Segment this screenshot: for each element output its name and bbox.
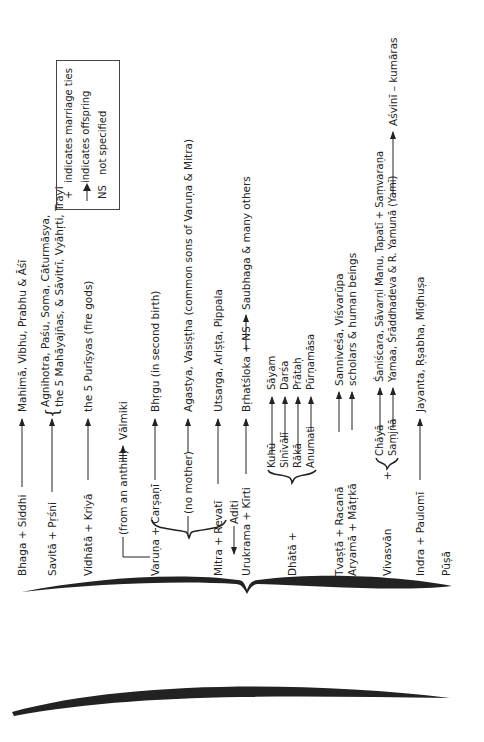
parents-mitra: Mitra + Revatī [212, 501, 224, 576]
offspring-samjna: Yamaa, Śrāddhadeva & R. Yamunā (Yamī) [387, 176, 399, 382]
parent-vivasvan: Vivasvān [381, 529, 393, 576]
aditi-genealogy-diagram: { + indicate [0, 0, 484, 742]
parents-vidhata: Vidhātā + Kriyā [82, 494, 94, 576]
offspring-brhatsloka: Bṛhatśloka + NS [240, 326, 252, 412]
offspring-tvasta: Sanniveśa, Viśvarūpa [333, 273, 345, 386]
parents-urukrama: Urukrama + Kīrti [240, 487, 252, 576]
offspring-sayam: Sāyam [266, 356, 278, 390]
offspring-aryama: scholars & human beings [346, 253, 358, 386]
note-no-mother: (no mother) [182, 451, 194, 514]
wife-chaya: Chāyā [374, 425, 386, 457]
root-aditi: Aditi [228, 500, 240, 524]
ns-symbol: NS [97, 185, 108, 199]
parents-varuna: Varuṇa + Carṣaṇī [149, 484, 161, 576]
main-brace [22, 576, 452, 594]
offspring-saubhaga: Saubhaga & many others [240, 176, 252, 310]
svg-text:{: { [43, 408, 62, 418]
wife-kuhu: Kuhū [266, 443, 278, 468]
offspring-indra: Jayanta, Ṛṣabha, Mīḍhuṣa [414, 276, 426, 412]
offspring-bhrgu: Bhṛgu (in second birth) [149, 291, 161, 412]
wife-anumati: Anumati [305, 426, 317, 468]
parents-bhaga: Bhaga + Siddhi [16, 495, 28, 576]
arrow-icon [81, 181, 93, 201]
offspring-asvini-kumaras: Aśvinī – kumāras [387, 37, 399, 126]
offspring-bhaga: Mahimā, Vibhu, Prabhu & Āśī [16, 260, 28, 412]
offspring-pratah: Prātaḥ [292, 358, 304, 390]
offspring-darsa: Darśa [279, 361, 291, 390]
legend-marriage-ties: indicates marriage ties [63, 68, 74, 183]
offspring-vidhata: the 5 Purīṣyas (fire gods) [82, 281, 94, 412]
offspring-agastya-vasistha: Agastya, Vasiṣṭha (common sons of Varuṇa… [182, 139, 194, 412]
wife-raka: Rākā [292, 443, 304, 468]
offspring-savita-line2: the 5 Mahāyajñas, & Sāvitrī, Vyāhṛti, Tr… [53, 186, 65, 407]
legend-not-specified: not specified [97, 111, 108, 175]
offspring-valmiki: Vālmiki [117, 401, 129, 440]
decorative-swash [12, 686, 450, 716]
legend-box: + indicates marriage ties indicates offs… [56, 60, 120, 210]
offspring-savita-line1: Agnihotra, Paśu, Soma, Cāturmāsya, [39, 215, 51, 407]
offspring-mitra: Utsarga, Ariṣṭa, Pippala [212, 289, 224, 412]
parents-aryama: Aryamā + Mātṛkā [346, 483, 358, 576]
offspring-purnamasa: Pūrṇamāsa [305, 334, 317, 390]
note-from-anthill: (from an anthill) [117, 450, 129, 535]
parents-savita: Savitā + Pṛśni [46, 502, 58, 576]
legend-offspring: indicates offspring [80, 91, 91, 183]
parents-tvasta: Tvaṣṭā + Racanā [333, 487, 345, 576]
parent-dhata: Dhātā + [286, 532, 298, 576]
offspring-chaya: Śaniścara, Sāvarṇi Manu, Tapatī + Saṃvar… [374, 151, 386, 382]
parents-indra: Indra + Paulomī [414, 492, 426, 576]
vivasvan-plus: + [381, 471, 393, 480]
wife-sinivali: Sinīvālī [279, 432, 291, 468]
name-pusa: Pūṣā [440, 551, 452, 576]
wife-samjna: Saṃjñā [387, 419, 399, 456]
